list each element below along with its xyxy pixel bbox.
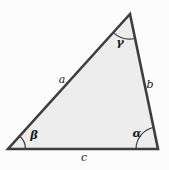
- angle-label-alpha: α: [133, 126, 142, 140]
- side-label-b: b: [146, 78, 153, 91]
- diagram-canvas: a b c γ β α: [0, 0, 169, 170]
- angle-label-beta: β: [29, 128, 38, 142]
- side-label-c: c: [81, 151, 87, 164]
- side-label-a: a: [59, 73, 66, 86]
- triangle-diagram: a b c γ β α: [0, 0, 169, 170]
